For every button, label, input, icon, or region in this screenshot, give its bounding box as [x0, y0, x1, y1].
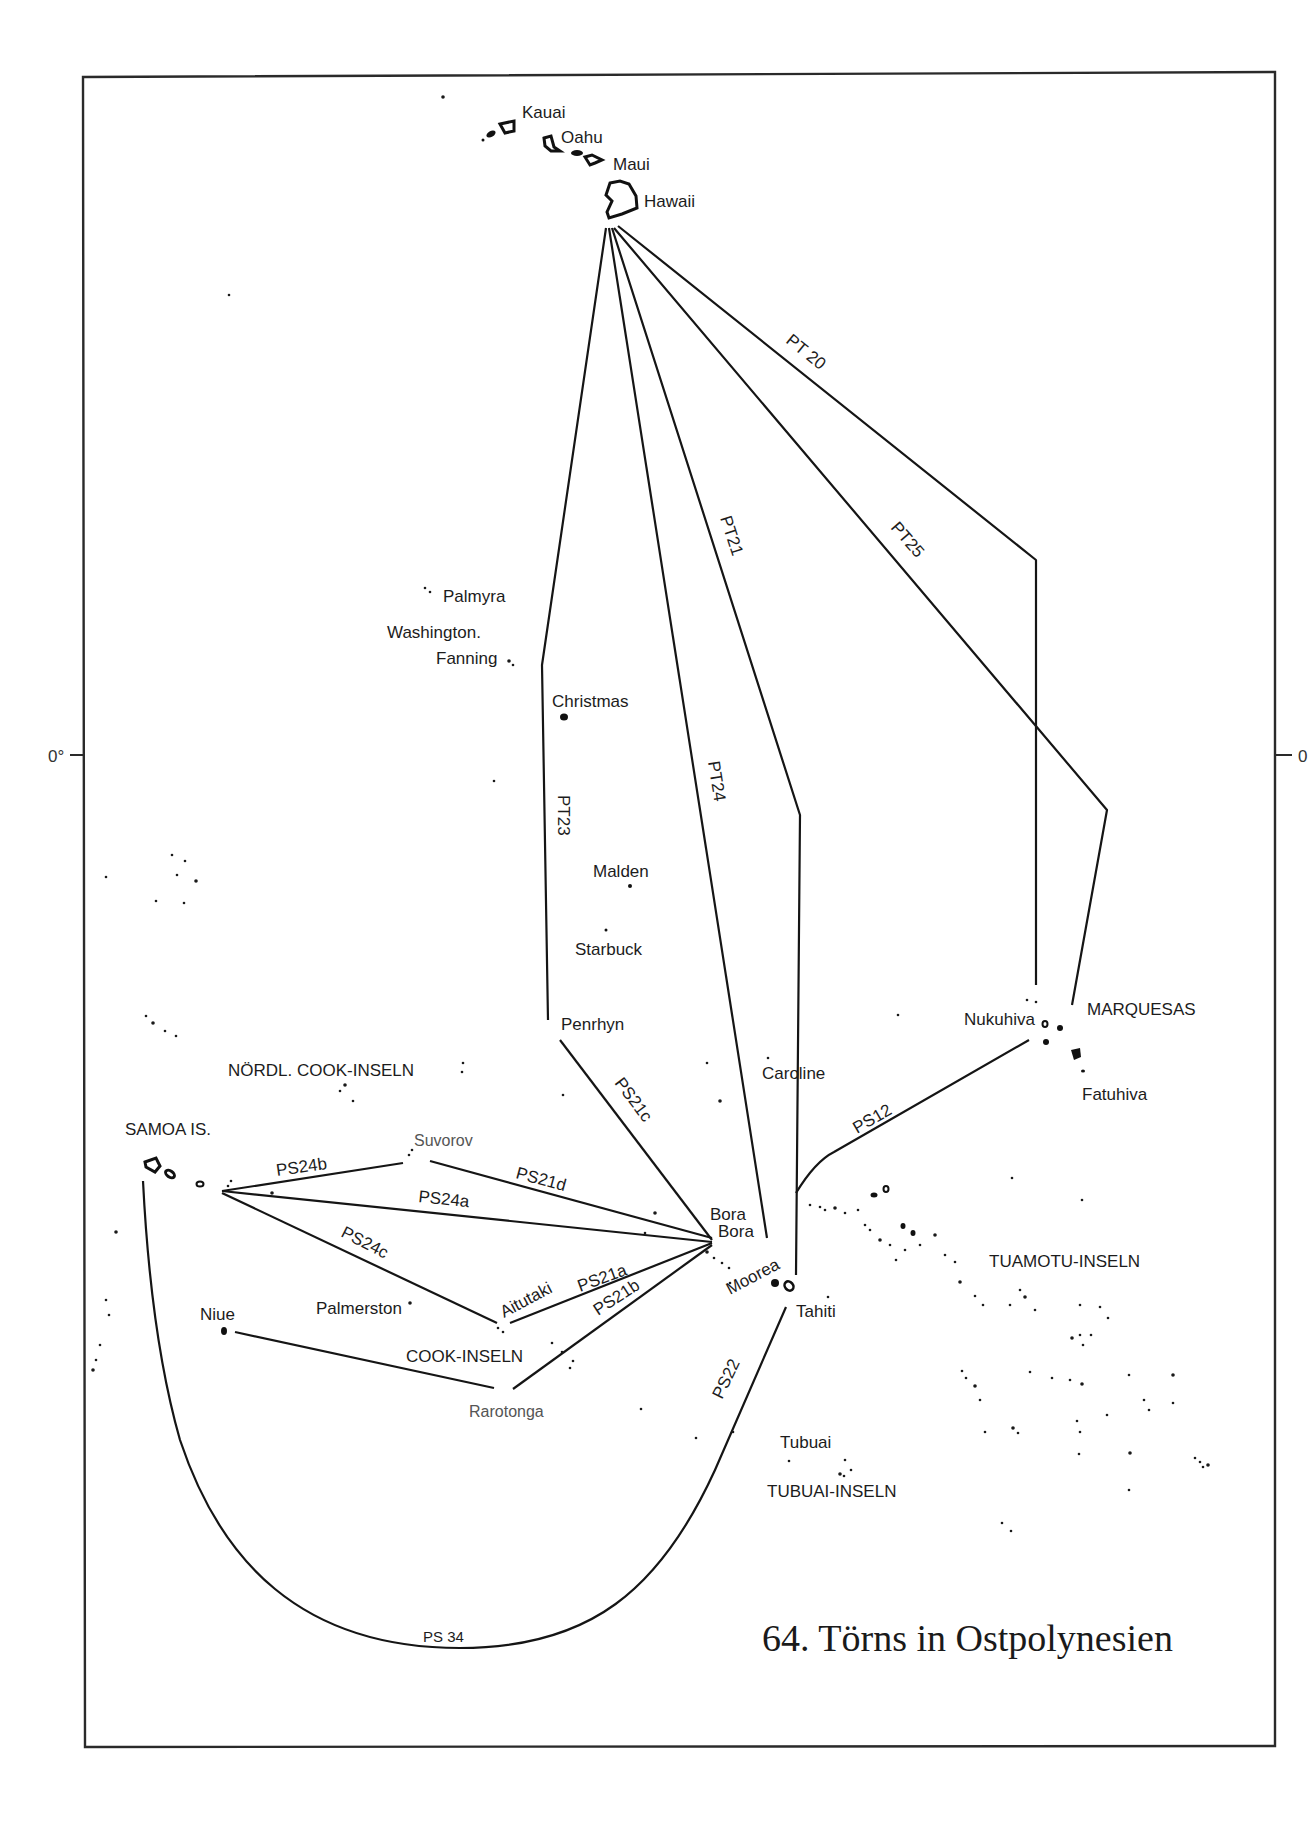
samoa-upolu-shape[interactable] [145, 1158, 160, 1172]
islet-dot [833, 1206, 837, 1210]
route-pt20[interactable] [618, 226, 1036, 985]
route-label-ps24a: PS24a [418, 1187, 471, 1211]
label-kauai: Kauai [522, 103, 565, 122]
map-title: 64. Törns in Ostpolynesien [762, 1617, 1173, 1659]
kauai-shape[interactable] [500, 121, 514, 133]
label-hawaii: Hawaii [644, 192, 695, 211]
label-bora-2: Bora [718, 1222, 754, 1241]
label-nukuhiva: Nukuhiva [964, 1010, 1035, 1029]
islet-dot [1206, 1463, 1210, 1467]
islet-dot [230, 1180, 233, 1183]
islet-dot [512, 664, 515, 667]
islet-dot [424, 587, 427, 590]
islet-dot [1106, 1414, 1109, 1417]
islet-dot [114, 1230, 118, 1234]
starbuck-dot[interactable] [605, 929, 608, 932]
route-pt25[interactable] [614, 228, 1107, 1005]
route-label-pt25: PT25 [887, 518, 928, 561]
label-penrhyn: Penrhyn [561, 1015, 624, 1034]
label-palmyra: Palmyra [443, 587, 506, 606]
islet-dot [788, 1460, 791, 1463]
maui-shape[interactable] [585, 155, 602, 165]
islet-dot [1070, 1336, 1074, 1340]
route-ps12[interactable] [796, 1040, 1029, 1193]
islet-dot [809, 1204, 812, 1207]
niue-shape[interactable] [221, 1327, 227, 1335]
route-label-ps22: PS22 [709, 1356, 744, 1402]
islet-dot [1128, 1489, 1131, 1492]
uapou-shape [1057, 1025, 1063, 1031]
samoa-islands [145, 1158, 204, 1187]
islet-dot [482, 139, 485, 142]
islet-dot [1099, 1306, 1102, 1309]
islet-dot [838, 1472, 842, 1476]
islet-dot [1081, 1199, 1084, 1202]
hawaii-shape[interactable] [606, 181, 637, 218]
islet-dot [1199, 1461, 1202, 1464]
fatuhiva-shape[interactable] [1081, 1070, 1085, 1073]
islet-dot [1172, 1402, 1175, 1405]
route-label-pt23: PT23 [554, 795, 573, 836]
islet-dot [99, 1344, 102, 1347]
islet-dot [339, 1090, 342, 1093]
islet-dot [904, 1249, 907, 1252]
samoa-tutuila-shape[interactable] [197, 1182, 204, 1187]
islet-dot [408, 1154, 411, 1157]
tahiti-shape[interactable] [783, 1280, 796, 1293]
islet-dots [91, 95, 1210, 1532]
islet-dot [176, 874, 179, 877]
label-washington: Washington. [387, 623, 481, 642]
region-marquesas: MARQUESAS [1087, 1000, 1196, 1019]
malden-dot[interactable] [628, 884, 632, 888]
label-fanning: Fanning [436, 649, 497, 668]
islet-dot [1026, 999, 1029, 1002]
islet-dot [869, 1229, 872, 1232]
islet-dot [713, 1257, 716, 1260]
islet-dot [767, 1057, 770, 1060]
islet-dot [569, 1367, 572, 1370]
islet-dot [171, 854, 174, 857]
region-cook-inseln: COOK-INSELN [406, 1347, 523, 1366]
islet-dot [843, 1475, 846, 1478]
islet-dot [108, 1314, 111, 1317]
islet-dot [889, 1244, 892, 1247]
nukuhiva-shape[interactable] [1043, 1021, 1048, 1027]
islet-dot [732, 1431, 735, 1434]
route-label-pt24: PT24 [704, 760, 729, 803]
label-suvorov: Suvorov [414, 1132, 473, 1149]
tuamotu-islet-b [884, 1186, 889, 1192]
islet-dot [1143, 1399, 1146, 1402]
islet-dot [270, 1191, 274, 1195]
islet-dot [1069, 1379, 1072, 1382]
region-tuamotu-inseln: TUAMOTU-INSELN [989, 1252, 1140, 1271]
islet-dot [1148, 1409, 1151, 1412]
route-ps21c[interactable] [560, 1040, 712, 1240]
islet-dot [561, 1351, 564, 1354]
islet-dot [343, 1083, 347, 1087]
equator-label-left: 0° [48, 747, 64, 766]
islet-dot [1011, 1426, 1015, 1430]
islet-dot [973, 1384, 977, 1388]
label-fatuhiva: Fatuhiva [1082, 1085, 1148, 1104]
label-aitutaki: Aitutaki [497, 1279, 555, 1322]
islet-dot [562, 1094, 565, 1097]
route-label-ps24c: PS24c [338, 1223, 392, 1263]
label-caroline: Caroline [762, 1064, 825, 1083]
oahu-shape[interactable] [544, 136, 560, 151]
moorea-shape[interactable] [771, 1279, 779, 1287]
region-samoa: SAMOA IS. [125, 1120, 211, 1139]
islet-dot [919, 1244, 922, 1247]
equator-label-right: 0 [1298, 747, 1307, 766]
islet-dot [974, 1295, 977, 1298]
islet-dot [961, 1370, 964, 1373]
islet-dot [408, 1301, 412, 1305]
islet-dot [857, 1209, 860, 1212]
islet-dot [1079, 1334, 1082, 1337]
label-maui: Maui [613, 155, 650, 174]
samoa-savaii-shape[interactable] [164, 1169, 176, 1180]
islet-dot [1017, 1432, 1020, 1435]
tuamotu-islet-d [911, 1230, 916, 1236]
christmas-island-shape[interactable] [560, 714, 568, 721]
islet-dot [695, 1437, 698, 1440]
route-pt23[interactable] [542, 228, 606, 1020]
